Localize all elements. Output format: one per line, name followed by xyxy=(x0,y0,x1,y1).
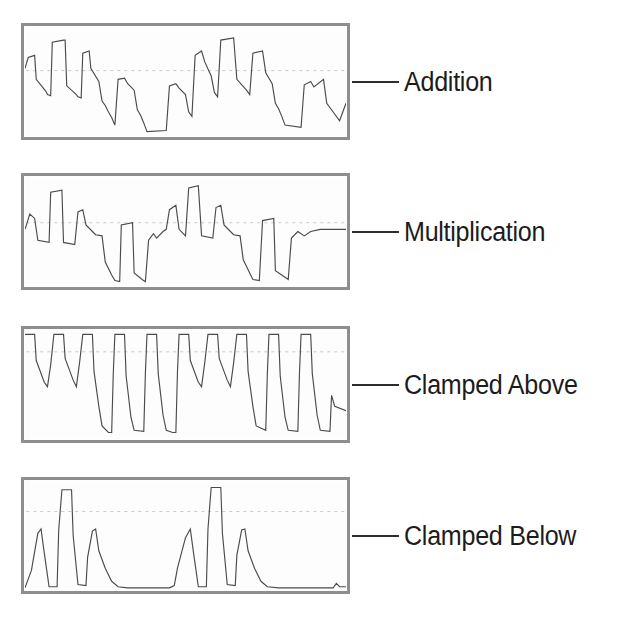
waveform-trace xyxy=(25,334,346,432)
signal-operations-figure: AdditionMultiplicationClamped AboveClamp… xyxy=(0,0,629,626)
panel-row: Clamped Above xyxy=(0,326,629,476)
callout-leader-line xyxy=(352,535,399,537)
panel-plot-area xyxy=(24,329,347,440)
panel-label-multiplication: Multiplication xyxy=(404,217,545,247)
waveform-plot xyxy=(25,177,346,286)
panel-label-clamped-above: Clamped Above xyxy=(404,370,578,400)
panel-row: Clamped Below xyxy=(0,477,629,626)
waveform-panel-clamped-below xyxy=(21,477,350,594)
waveform-plot xyxy=(25,330,346,439)
waveform-plot xyxy=(25,481,346,590)
callout-leader-line xyxy=(352,384,399,386)
waveform-panel-multiplication xyxy=(21,173,350,290)
waveform-trace xyxy=(25,38,346,132)
waveform-trace xyxy=(25,488,346,588)
waveform-plot xyxy=(25,27,346,136)
panel-plot-area xyxy=(24,176,347,287)
callout-leader-line xyxy=(352,81,399,83)
panel-row: Multiplication xyxy=(0,173,629,323)
panel-label-clamped-below: Clamped Below xyxy=(404,521,576,551)
waveform-trace xyxy=(25,186,346,282)
panel-label-addition: Addition xyxy=(404,67,493,97)
panel-plot-area xyxy=(24,26,347,137)
waveform-panel-addition xyxy=(21,23,350,140)
waveform-panel-clamped-above xyxy=(21,326,350,443)
callout-leader-line xyxy=(352,231,399,233)
panel-row: Addition xyxy=(0,23,629,173)
panel-plot-area xyxy=(24,480,347,591)
